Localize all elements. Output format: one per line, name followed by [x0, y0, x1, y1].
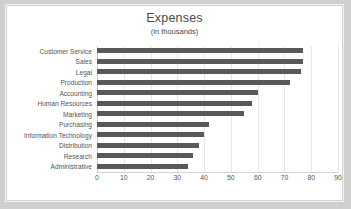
category-label: Administrative: [51, 163, 95, 170]
bar-row: [97, 162, 338, 173]
bar-row: [97, 99, 338, 110]
bar[interactable]: [97, 122, 209, 127]
category-label: Human Resources: [37, 100, 95, 107]
category-row: Marketing: [9, 109, 95, 120]
category-row: Research: [9, 151, 95, 162]
x-tick-label: 90: [334, 174, 342, 181]
bar[interactable]: [97, 153, 193, 158]
bar[interactable]: [97, 132, 204, 137]
category-row: Production: [9, 78, 95, 89]
bar[interactable]: [97, 80, 290, 85]
category-label: Legal: [76, 69, 95, 76]
category-row: Information Technology: [9, 130, 95, 141]
x-tick-label: 60: [254, 174, 262, 181]
x-tick-label: 0: [95, 174, 99, 181]
category-row: Human Resources: [9, 99, 95, 110]
category-row: Administrative: [9, 162, 95, 173]
bar[interactable]: [97, 59, 303, 64]
bar-series: [97, 46, 338, 172]
category-label: Customer Service: [40, 48, 95, 55]
bar-row: [97, 120, 338, 131]
x-tick-label: 20: [147, 174, 155, 181]
chart-subtitle: (in thousands): [7, 26, 342, 37]
bar[interactable]: [97, 69, 301, 74]
x-tick-label: 80: [307, 174, 315, 181]
bar[interactable]: [97, 101, 252, 106]
bar[interactable]: [97, 48, 303, 53]
category-label: Production: [60, 79, 95, 86]
category-row: Customer Service: [9, 46, 95, 57]
bar[interactable]: [97, 164, 188, 169]
bar-row: [97, 141, 338, 152]
category-row: Sales: [9, 57, 95, 68]
category-row: Purchasing: [9, 120, 95, 131]
plot-area: [97, 46, 338, 172]
bar[interactable]: [97, 90, 258, 95]
bar[interactable]: [97, 143, 199, 148]
value-axis-ticks: 0102030405060708090: [97, 174, 338, 188]
x-tick-label: 70: [281, 174, 289, 181]
x-axis-line: [97, 172, 338, 173]
category-axis-labels: Customer ServiceSalesLegalProductionAcco…: [9, 46, 95, 172]
chart-container: Expenses (in thousands) Customer Service…: [6, 5, 343, 201]
x-tick-label: 40: [200, 174, 208, 181]
category-label: Marketing: [63, 111, 95, 118]
bar-row: [97, 78, 338, 89]
category-row: Accounting: [9, 88, 95, 99]
gridline-90: [338, 46, 339, 172]
chart-title: Expenses: [7, 11, 342, 26]
x-tick-label: 50: [227, 174, 235, 181]
category-label: Research: [64, 153, 95, 160]
x-tick-label: 10: [120, 174, 128, 181]
category-label: Information Technology: [24, 132, 95, 139]
category-row: Legal: [9, 67, 95, 78]
bar-row: [97, 67, 338, 78]
bar-row: [97, 109, 338, 120]
bar-row: [97, 151, 338, 162]
bar-row: [97, 57, 338, 68]
category-label: Accounting: [59, 90, 95, 97]
chart-title-block: Expenses (in thousands): [7, 11, 342, 37]
category-row: Distribution: [9, 141, 95, 152]
bar[interactable]: [97, 111, 244, 116]
bar-row: [97, 88, 338, 99]
category-label: Sales: [76, 58, 96, 65]
bar-row: [97, 130, 338, 141]
category-label: Distribution: [59, 142, 95, 149]
x-tick-label: 30: [174, 174, 182, 181]
category-label: Purchasing: [59, 121, 95, 128]
bar-row: [97, 46, 338, 57]
